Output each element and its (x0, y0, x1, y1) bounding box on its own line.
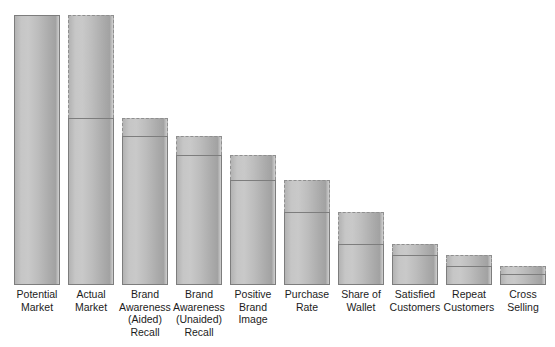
bar-actual-segment (230, 180, 276, 285)
bar-actual-segment (176, 155, 222, 285)
bar-9 (446, 255, 492, 285)
chart-plot-area (0, 0, 555, 290)
bar-potential-segment (122, 118, 168, 136)
chart-category-labels: Potential MarketActual MarketBrand Aware… (0, 288, 555, 347)
bar-actual-segment (14, 15, 60, 285)
bar-potential-segment (68, 15, 114, 118)
bar-actual-segment (122, 136, 168, 285)
bar-potential-segment (338, 212, 384, 244)
bar-potential-segment (230, 155, 276, 180)
bar-potential-segment (446, 255, 492, 266)
bar-potential-segment (392, 244, 438, 255)
bar-2 (68, 15, 114, 285)
funnel-bar-chart: Potential MarketActual MarketBrand Aware… (0, 0, 555, 347)
bar-10 (500, 266, 546, 285)
bar-7 (338, 212, 384, 285)
bar-actual-segment (446, 266, 492, 285)
bar-actual-segment (68, 118, 114, 285)
bar-3 (122, 118, 168, 285)
bar-8 (392, 244, 438, 285)
bar-actual-segment (392, 255, 438, 285)
bar-actual-segment (338, 244, 384, 285)
bar-6 (284, 180, 330, 285)
bar-potential-segment (176, 136, 222, 155)
bar-5 (230, 155, 276, 285)
bar-actual-segment (284, 212, 330, 285)
bar-actual-segment (500, 274, 546, 285)
bar-1 (14, 15, 60, 285)
bar-label-10: Cross Selling (487, 288, 555, 313)
bar-4 (176, 136, 222, 285)
bar-potential-segment (284, 180, 330, 212)
bar-potential-segment (500, 266, 546, 274)
